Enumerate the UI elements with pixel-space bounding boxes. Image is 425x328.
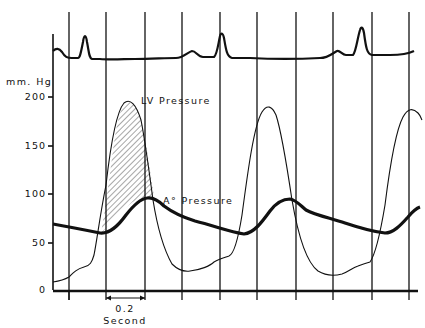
time-scale-bar xyxy=(106,296,145,301)
lv-pressure-label: LV Pressure xyxy=(141,95,211,106)
y-tick-50: 50 xyxy=(32,237,46,248)
ecg-trace xyxy=(53,28,414,60)
time-scale-unit: Second xyxy=(103,315,146,326)
y-tick-150: 150 xyxy=(25,140,46,151)
y-axis xyxy=(48,34,53,290)
pressure-chart: 200 150 100 50 0 mm. Hg 0.2 Second LV Pr… xyxy=(0,0,425,328)
time-scale-value: 0.2 xyxy=(115,303,134,314)
aortic-pressure-label: A° Pressure xyxy=(163,195,233,206)
y-tick-200: 200 xyxy=(25,91,46,102)
y-tick-100: 100 xyxy=(25,188,46,199)
y-tick-0: 0 xyxy=(39,284,46,295)
y-unit-label: mm. Hg xyxy=(6,76,52,87)
